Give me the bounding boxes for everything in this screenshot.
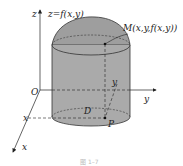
- solid-diagram: z z=f(x,y) M(x,y,f(x,y)) O y x x y D P 图…: [0, 0, 183, 166]
- point-m-label: M(x,y,f(x,y)): [122, 23, 178, 33]
- y-axis-label: y: [143, 94, 150, 104]
- z-axis-label: z: [31, 9, 37, 19]
- point-p-label: P: [107, 119, 115, 129]
- point-p: [104, 117, 107, 120]
- x-axis-label: x: [22, 142, 27, 152]
- x-coordinate-label: x: [23, 113, 28, 123]
- origin-label: O: [31, 87, 39, 97]
- point-m: [104, 43, 107, 46]
- figure-caption: 图 1–7: [80, 158, 99, 166]
- surface-label: z=f(x,y): [47, 9, 84, 19]
- surface-dome: [52, 17, 130, 55]
- region-label: D: [83, 106, 91, 116]
- y-coordinate-label: y: [111, 77, 118, 87]
